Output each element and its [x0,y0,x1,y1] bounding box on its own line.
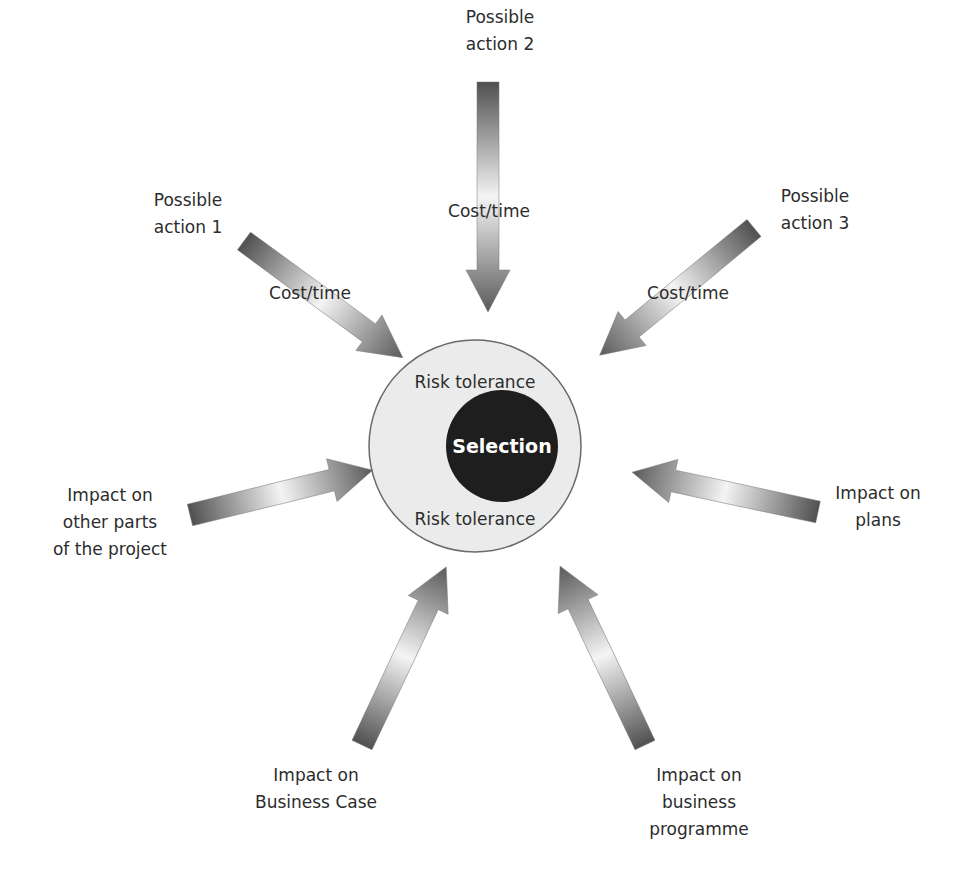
label-possible-action-1: Possible action 1 [154,187,223,241]
arrow-possible-action-2 [466,82,510,312]
label-line: Possible [781,183,850,210]
label-line: Possible [466,4,535,31]
arrow-impact-business-case [342,557,466,754]
label-possible-action-3: Possible action 3 [781,183,850,237]
arrow-impact-other-parts [185,449,378,537]
label-impact-business-programme: Impact on business programme [649,762,749,843]
label-impact-business-case: Impact on Business Case [255,762,377,816]
risk-tolerance-top-label: Risk tolerance [415,372,536,392]
label-line: Impact on [255,762,377,789]
cost-time-label-3: Cost/time [647,280,729,307]
cost-time-label-1: Cost/time [269,280,351,307]
label-impact-other-parts: Impact on other parts of the project [53,482,167,563]
arrow-impact-business-programme [540,557,665,755]
label-line: action 1 [154,214,223,241]
label-line: other parts [53,509,167,536]
label-impact-plans: Impact on plans [835,480,920,534]
label-line: Impact on [649,762,749,789]
label-line: Business Case [255,789,377,816]
arrow-impact-plans [628,451,823,534]
label-line: business [649,789,749,816]
label-line: Possible [154,187,223,214]
label-line: plans [835,507,920,534]
label-line: action 2 [466,31,535,58]
label-line: Impact on [835,480,920,507]
label-line: action 3 [781,210,850,237]
label-line: programme [649,816,749,843]
selection-label: Selection [452,435,551,457]
label-possible-action-2: Possible action 2 [466,4,535,58]
label-line: of the project [53,536,167,563]
cost-time-label-2: Cost/time [448,198,530,225]
risk-tolerance-bottom-label: Risk tolerance [415,509,536,529]
label-line: Impact on [53,482,167,509]
